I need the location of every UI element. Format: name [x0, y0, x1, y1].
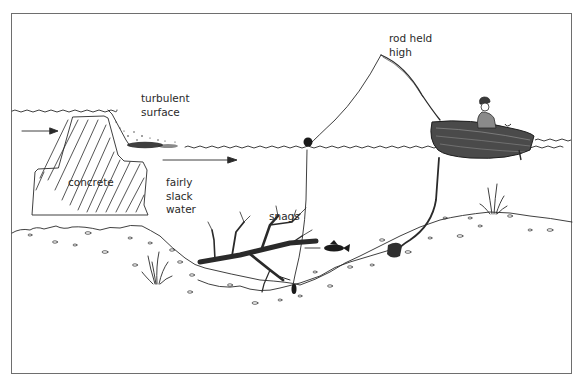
label-turbulent-surface: turbulent surface — [141, 92, 190, 119]
flow-arrow-upstream — [22, 128, 58, 134]
weir-overflow — [108, 110, 130, 146]
weed-left — [142, 252, 172, 284]
weed-right — [480, 184, 507, 214]
weight — [292, 284, 297, 294]
fish — [324, 240, 350, 252]
turbulent-surface — [115, 121, 178, 148]
fishing-line-upper — [308, 55, 381, 146]
label-snags: snags — [269, 210, 300, 224]
anchor-weight — [387, 243, 402, 258]
fishing-rod — [381, 55, 440, 120]
flow-arrow-downstream — [163, 157, 237, 163]
angler — [478, 97, 497, 128]
concrete-hatching — [36, 120, 144, 212]
label-rod-held-high: rod held high — [389, 32, 432, 59]
label-fairly-slack-water: fairly slack water — [166, 176, 196, 217]
float — [304, 138, 313, 147]
water-surface-upstream — [12, 110, 117, 112]
label-concrete: concrete — [68, 176, 114, 190]
fishing-scene — [0, 0, 584, 383]
anchor-rope — [396, 158, 439, 252]
